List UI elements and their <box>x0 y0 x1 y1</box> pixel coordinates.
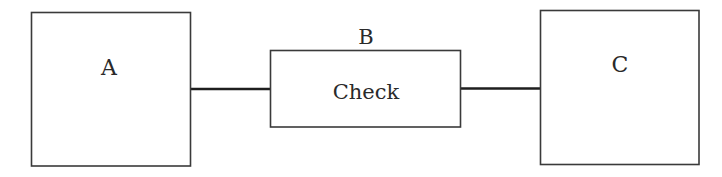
node-a-box <box>32 13 191 167</box>
node-c-label: C <box>612 52 629 77</box>
block-diagram: A B Check C <box>0 0 722 177</box>
node-a-label: A <box>100 55 118 80</box>
node-b-text: Check <box>333 80 400 104</box>
node-a: A <box>32 13 191 167</box>
node-c: C <box>541 11 700 165</box>
node-b-label: B <box>358 25 373 49</box>
diagram-canvas: A B Check C <box>0 0 722 177</box>
node-c-box <box>541 11 700 165</box>
node-b: B Check <box>271 25 461 127</box>
